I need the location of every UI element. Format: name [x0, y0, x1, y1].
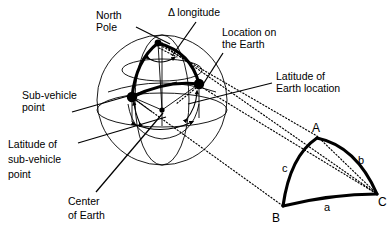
label-delta-longitude: Δ longitude [168, 6, 220, 18]
label-side-c: c [282, 162, 288, 174]
label-sub-vehicle-point-line1: Sub-vehicle [22, 89, 77, 101]
label-center-of-earth-line1: Center [68, 195, 100, 207]
radius-to-earth-location [162, 84, 199, 110]
label-latitude-sub-vehicle-line1: Latitude of [8, 138, 57, 150]
label-vertex-C: C [378, 195, 387, 209]
label-location-on-earth-line1: Location on [222, 26, 276, 38]
label-side-a: a [324, 201, 331, 213]
earth-location-angle-dashed-ray [176, 88, 196, 104]
sub-vehicle-latitude-angle-arc [134, 103, 140, 124]
spherical-triangle-diagram: North Pole Δ longitude Location on the E… [0, 0, 388, 230]
label-vertex-B: B [272, 211, 280, 225]
earth-sphere-group [97, 35, 227, 165]
label-latitude-sub-vehicle-line3: point [8, 168, 31, 180]
label-vertex-A: A [312, 121, 320, 135]
triangle-side-c [283, 138, 317, 206]
text-labels-group: North Pole Δ longitude Location on the E… [8, 6, 387, 225]
diagram-canvas: North Pole Δ longitude Location on the E… [0, 0, 388, 230]
label-sub-vehicle-point-line2: point [22, 101, 45, 113]
label-north-pole-line2: Pole [96, 21, 117, 33]
leader-delta-longitude [172, 22, 196, 56]
label-side-b: b [358, 154, 364, 166]
equatorial-separation-angle-arc [134, 122, 192, 130]
radius-to-north-pole [158, 43, 162, 110]
label-latitude-earth-location-line1: Latitude of [276, 70, 325, 82]
projection-line-pole-to-C [166, 47, 377, 194]
center-of-earth-dot [159, 107, 164, 112]
projection-lines-group [137, 45, 377, 206]
projection-line-subvehicle-to-B [137, 101, 283, 206]
label-location-on-earth-line2: the Earth [222, 38, 265, 50]
label-center-of-earth-line2: of Earth [68, 209, 105, 221]
triangle-side-b [317, 138, 377, 194]
label-latitude-sub-vehicle-line2: sub-vehicle [8, 153, 61, 165]
leader-latitude-sub-vehicle [78, 117, 166, 143]
label-latitude-earth-location-line2: Earth location [276, 82, 340, 94]
label-north-pole-line1: North [96, 9, 122, 21]
projection-chord-A-to-C [317, 136, 377, 194]
